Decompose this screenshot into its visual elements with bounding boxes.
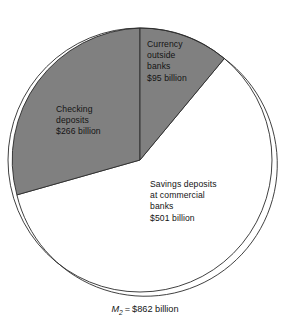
pie-chart-svg xyxy=(0,0,290,326)
caption-symbol: M xyxy=(111,304,119,314)
caption-equals: = xyxy=(125,304,130,314)
caption-value: $862 billion xyxy=(132,304,179,314)
caption-subscript: 2 xyxy=(119,309,123,316)
chart-caption: M2=$862 billion xyxy=(0,303,290,319)
pie-chart-figure: Currency outside banks $95 billion Check… xyxy=(0,0,290,326)
